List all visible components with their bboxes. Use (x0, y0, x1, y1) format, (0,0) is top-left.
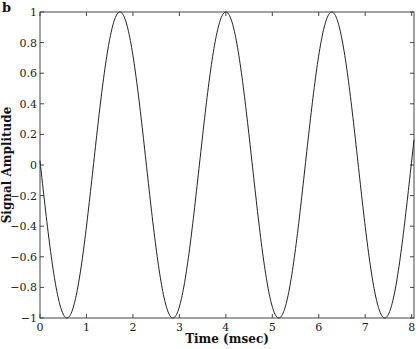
x-tick-label: 0 (37, 321, 44, 334)
x-tick-label: 1 (83, 321, 90, 334)
y-tick-label: −0.6 (10, 251, 37, 264)
signal-line (40, 12, 414, 318)
y-tick-label: −0.4 (10, 220, 37, 233)
y-tick-label: 0.4 (20, 98, 38, 111)
y-tick-label: 0.8 (20, 37, 38, 50)
x-tick-label: 2 (129, 321, 136, 334)
x-tick-label: 6 (315, 321, 322, 334)
y-tick-label: −0.2 (10, 190, 37, 203)
y-tick-label: 0.6 (20, 67, 38, 80)
y-tick-label: 1 (30, 6, 37, 19)
y-axis-title: Signal Amplitude (0, 106, 14, 223)
x-tick-label: 7 (362, 321, 369, 334)
y-tick-label: 0 (30, 159, 37, 172)
x-axis-title: Time (msec) (185, 332, 269, 346)
y-tick-label: −0.8 (10, 281, 37, 294)
x-tick-label: 8 (408, 321, 415, 334)
x-tick-label: 5 (269, 321, 276, 334)
y-tick-labels: −1−0.8−0.6−0.4−0.200.20.40.60.81 (10, 6, 37, 325)
line-chart: 012345678 −1−0.8−0.6−0.4−0.200.20.40.60.… (0, 0, 419, 349)
y-tick-label: 0.2 (20, 128, 38, 141)
y-tick-label: −1 (21, 312, 37, 325)
x-tick-label: 3 (176, 321, 183, 334)
